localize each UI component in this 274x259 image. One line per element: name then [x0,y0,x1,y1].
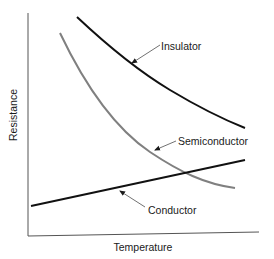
x-axis-title: Temperature [114,241,173,253]
semiconductor-label: Semiconductor [178,135,249,147]
conductor-label: Conductor [148,204,197,216]
insulator-leader-arrow [132,45,160,63]
insulator-label: Insulator [161,40,202,52]
insulator-curve [77,17,245,128]
y-axis-title: Resistance [7,89,19,141]
conductor-leader-arrow [120,191,145,207]
x-axis [28,232,259,236]
resistance-vs-temperature-diagram: Insulator Semiconductor Conductor Temper… [0,0,274,259]
semiconductor-leader-arrow [155,141,176,150]
